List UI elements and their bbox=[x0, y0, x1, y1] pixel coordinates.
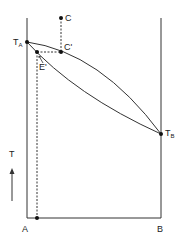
point-e-prime bbox=[35, 50, 39, 54]
point-c bbox=[59, 16, 63, 20]
temperature-axis-label: T bbox=[9, 149, 15, 159]
label-tb: TB bbox=[165, 128, 175, 139]
composition-b-label: B bbox=[157, 224, 163, 234]
phase-diagram: TA C C' E' TB T A B bbox=[0, 0, 186, 242]
label-ta: TA bbox=[13, 37, 23, 48]
solidus-curve bbox=[27, 42, 161, 134]
point-ta bbox=[25, 40, 29, 44]
label-c-prime: C' bbox=[64, 42, 72, 52]
liquidus-curve bbox=[27, 42, 161, 134]
point-c-prime bbox=[59, 50, 63, 54]
label-c: C bbox=[65, 13, 72, 23]
point-a-base bbox=[35, 216, 39, 220]
point-tb bbox=[159, 132, 163, 136]
label-e-prime: E' bbox=[39, 62, 47, 72]
composition-a-label: A bbox=[22, 224, 28, 234]
temperature-up-arrow-icon bbox=[10, 168, 15, 201]
